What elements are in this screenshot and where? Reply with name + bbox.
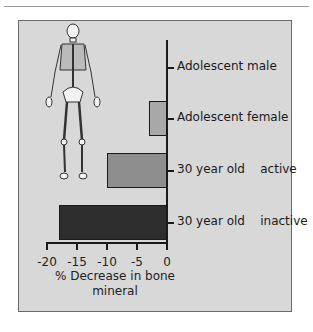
category-label: Adolescent male bbox=[177, 59, 277, 73]
x-axis-title-line-2: mineral bbox=[40, 284, 190, 299]
x-tick bbox=[166, 242, 168, 250]
category-label: 30 year old inactive bbox=[177, 214, 308, 228]
bar bbox=[107, 153, 167, 188]
x-tick-label: -20 bbox=[32, 255, 62, 269]
y-tick bbox=[168, 170, 174, 172]
x-tick bbox=[106, 242, 108, 250]
y-tick bbox=[168, 118, 174, 120]
y-tick bbox=[168, 67, 174, 69]
x-tick-label: -15 bbox=[62, 255, 92, 269]
x-axis-title: % Decrease in bone mineral bbox=[40, 269, 190, 299]
x-tick-label: -5 bbox=[122, 255, 152, 269]
x-tick bbox=[76, 242, 78, 250]
top-rule bbox=[4, 6, 309, 7]
x-tick-label: 0 bbox=[152, 255, 182, 269]
bar bbox=[59, 205, 167, 240]
x-tick-label: -10 bbox=[92, 255, 122, 269]
x-tick bbox=[46, 242, 48, 250]
category-label: Adolescent female bbox=[177, 110, 288, 124]
x-axis-title-line-1: % Decrease in bone bbox=[40, 269, 190, 284]
bar bbox=[149, 101, 167, 136]
y-tick bbox=[168, 222, 174, 224]
x-tick bbox=[136, 242, 138, 250]
category-label: 30 year old active bbox=[177, 162, 297, 176]
